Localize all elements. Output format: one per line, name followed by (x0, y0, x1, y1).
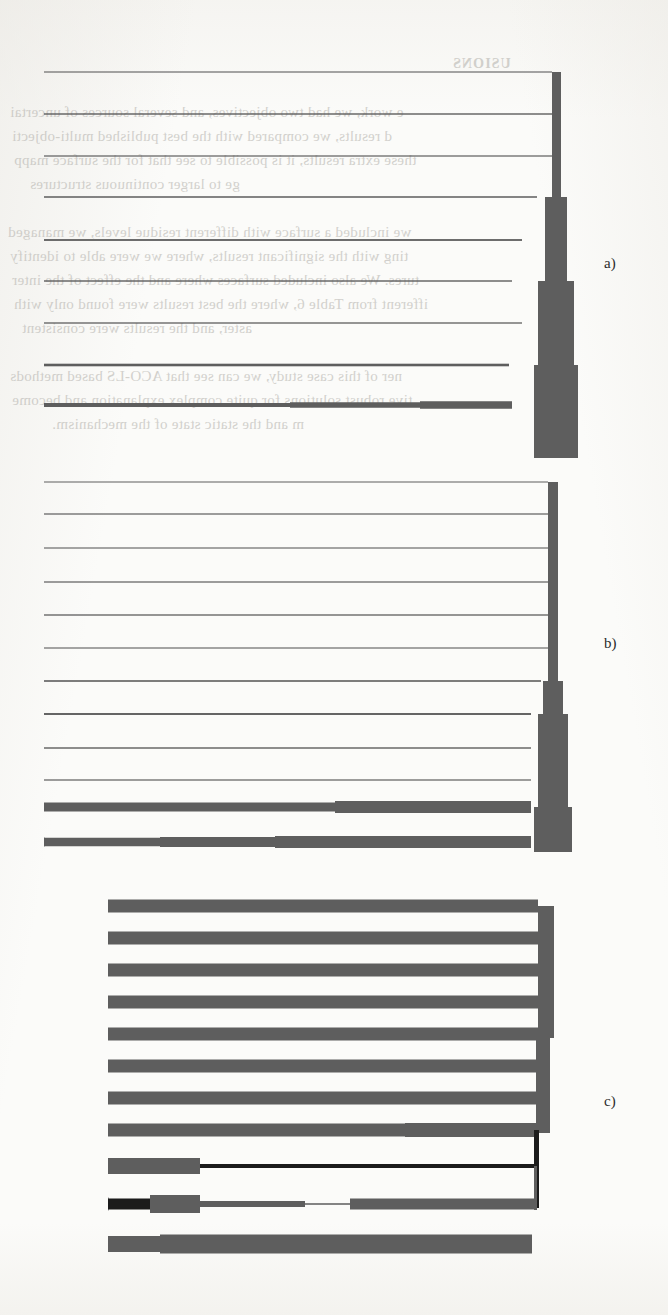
dendrogram-trunk-segment (534, 365, 578, 458)
dendrogram-leaf-branch (108, 900, 538, 913)
dendrogram-branch-segment (160, 1235, 300, 1254)
dendrogram-leaf-branch (44, 803, 100, 812)
dendrogram-leaf-branch (108, 964, 538, 977)
dendrogram-leaf-branch (44, 239, 522, 241)
dendrogram-svg-b (0, 462, 600, 852)
dendrogram-branch-segment (108, 1236, 160, 1252)
dendrogram-leaf-branch (44, 113, 552, 114)
dendrogram-leaf-branch (44, 322, 522, 323)
panel-label-a: a) (604, 255, 616, 272)
dendrogram-leaf-branch (108, 1092, 538, 1105)
dendrogram-branch-segment (100, 803, 335, 812)
dendrogram-leaf-branch (44, 364, 509, 367)
dendrogram-branch-segment (305, 1203, 350, 1205)
dendrogram-leaf-branch (44, 547, 548, 548)
dendrogram-branch-segment (150, 1195, 200, 1213)
dendrogram-svg-c (0, 898, 600, 1298)
dendrogram-leaf-branch (44, 280, 512, 281)
dendrogram-leaf-branch (108, 996, 538, 1009)
dendrogram-leaf-branch (44, 513, 548, 514)
dendrogram-leaf-branch (44, 581, 548, 582)
dendrogram-leaf-branch (44, 647, 548, 648)
dendrogram-panel-b (0, 462, 600, 852)
dendrogram-branch-segment (108, 1158, 200, 1174)
dendrogram-trunk-segment (534, 807, 572, 852)
dendrogram-trunk-segment (536, 1034, 550, 1133)
dendrogram-leaf-branch (44, 713, 531, 715)
dendrogram-leaf-branch (108, 1124, 405, 1137)
dendrogram-svg-a (0, 58, 600, 458)
dendrogram-leaf-branch (44, 680, 541, 682)
dendrogram-branch-segment (350, 1199, 534, 1210)
dendrogram-branch-segment (300, 1235, 532, 1254)
dendrogram-branch-segment (405, 1123, 538, 1137)
dendrogram-leaf-branch (108, 1060, 538, 1073)
dendrogram-leaf-branch (44, 155, 552, 156)
dendrogram-leaf-branch (44, 196, 537, 198)
dendrogram-branch-segment (420, 401, 512, 409)
dendrogram-panel-c (0, 898, 600, 1298)
dendrogram-trunk-segment (548, 482, 558, 684)
dendrogram-branch-segment (108, 1199, 150, 1210)
dendrogram-branch-segment (335, 801, 531, 813)
dendrogram-branch-segment (44, 838, 160, 847)
dendrogram-panel-a (0, 58, 600, 458)
dendrogram-leaf-branch (44, 482, 548, 483)
dendrogram-leaf-branch (44, 71, 552, 72)
dendrogram-branch-segment (160, 837, 275, 847)
panel-label-b: b) (604, 635, 617, 652)
dendrogram-leaf-branch (44, 779, 531, 780)
dendrogram-branch-segment (100, 404, 290, 406)
dendrogram-leaf-branch (108, 1028, 538, 1041)
dendrogram-branch-segment (275, 836, 531, 848)
panel-label-c: c) (604, 1093, 616, 1110)
dendrogram-leaf-branch (44, 747, 531, 748)
dendrogram-leaf-branch (108, 932, 538, 945)
dendrogram-branch-segment (290, 402, 420, 408)
dendrogram-trunk-segment (538, 906, 554, 1038)
dendrogram-trunk-segment (534, 1166, 537, 1210)
dendrogram-branch-segment (200, 1201, 305, 1207)
dendrogram-branch-segment (200, 1164, 534, 1168)
scanned-page: USIONSe work, we had two objectives, and… (0, 0, 668, 1315)
dendrogram-leaf-branch (44, 614, 548, 615)
